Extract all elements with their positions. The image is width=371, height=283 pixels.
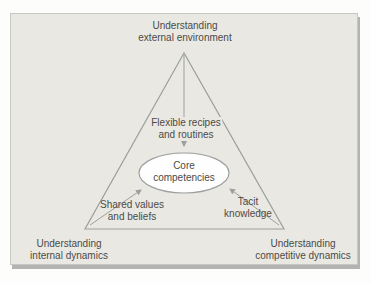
label-core-competencies-line2: competencies bbox=[153, 172, 215, 184]
label-shared-values-line1: Shared values bbox=[100, 199, 164, 211]
label-competitive-dynamics-line1: Understanding bbox=[255, 238, 351, 250]
label-flexible-recipes-line1: Flexible recipes bbox=[151, 117, 220, 129]
label-competitive-dynamics-line2: competitive dynamics bbox=[255, 250, 351, 262]
label-tacit-knowledge: Tacit knowledge bbox=[224, 196, 272, 220]
label-flexible-recipes-line2: and routines bbox=[151, 129, 220, 141]
diagram-panel: Understanding external environment Flexi… bbox=[10, 13, 358, 265]
label-core-competencies-line1: Core bbox=[153, 160, 215, 172]
label-internal-dynamics: Understanding internal dynamics bbox=[30, 238, 108, 262]
label-external-environment-line1: Understanding bbox=[138, 20, 231, 32]
label-shared-values-line2: and beliefs bbox=[100, 211, 164, 223]
label-core-competencies: Core competencies bbox=[153, 160, 215, 184]
label-external-environment-line2: external environment bbox=[138, 32, 231, 44]
label-internal-dynamics-line1: Understanding bbox=[30, 238, 108, 250]
label-flexible-recipes: Flexible recipes and routines bbox=[149, 117, 222, 141]
label-shared-values: Shared values and beliefs bbox=[100, 199, 164, 223]
label-tacit-knowledge-line1: Tacit bbox=[224, 196, 272, 208]
label-tacit-knowledge-line2: knowledge bbox=[224, 208, 272, 220]
label-external-environment: Understanding external environment bbox=[138, 20, 231, 44]
label-competitive-dynamics: Understanding competitive dynamics bbox=[255, 238, 351, 262]
label-internal-dynamics-line2: internal dynamics bbox=[30, 250, 108, 262]
